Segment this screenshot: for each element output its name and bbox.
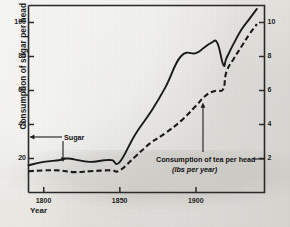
axis-tick-label: 80 <box>6 52 26 59</box>
x-axis-title: Year <box>30 206 47 215</box>
axis-tick-label: 1900 <box>188 197 204 204</box>
axis-tick-label: 1800 <box>36 197 52 204</box>
x-axis-ticks <box>44 187 196 193</box>
axis-tick-label: 8 <box>268 52 272 59</box>
axis-tick-label: 2 <box>268 154 272 161</box>
sugar-annotation-label: Sugar <box>64 133 84 142</box>
tea-annotation-label-line1: Consumption of tea per head <box>156 155 255 164</box>
line-chart: Consumption of sugar per head (lbs per y… <box>0 0 290 227</box>
chart-canvas <box>0 0 290 227</box>
axis-tick-label: 6 <box>268 86 272 93</box>
axis-tick-label: 4 <box>268 120 272 127</box>
plot-frame <box>29 6 265 193</box>
axis-tick-label: 100 <box>6 18 26 25</box>
axis-tick-label: 40 <box>6 120 26 127</box>
tea-annotation-label-line2: (lbs per year) <box>172 165 217 174</box>
axis-tick-label: 10 <box>268 18 276 25</box>
axis-tick-label: 60 <box>6 86 26 93</box>
axis-tick-label: 20 <box>6 154 26 161</box>
right-axis-ticks <box>259 23 265 159</box>
axis-tick-label: 1850 <box>112 197 128 204</box>
